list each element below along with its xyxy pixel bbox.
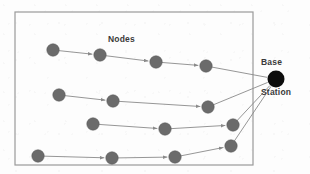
- sensor-node[interactable]: [106, 152, 118, 164]
- sensor-node[interactable]: [202, 101, 214, 113]
- chain-link: [170, 125, 225, 128]
- chain-link: [98, 124, 157, 128]
- nodes-label: Nodes: [108, 34, 135, 44]
- sensor-node[interactable]: [159, 123, 171, 135]
- sensor-node[interactable]: [32, 150, 44, 162]
- base-station-label: Base Station: [261, 37, 291, 117]
- sensor-node[interactable]: [94, 49, 106, 61]
- sensor-node[interactable]: [227, 119, 239, 131]
- figure-canvas: Nodes Base Station: [0, 0, 310, 174]
- base-station-label-line1: Base: [261, 57, 291, 67]
- chain-link: [180, 147, 223, 156]
- sensor-node[interactable]: [200, 60, 212, 72]
- sensor-nodes-layer: [32, 44, 239, 164]
- sensor-node[interactable]: [87, 118, 99, 130]
- chain-link: [161, 62, 198, 65]
- sensor-node[interactable]: [107, 95, 119, 107]
- sensor-node[interactable]: [169, 151, 181, 163]
- chain-link: [64, 96, 105, 101]
- chain-link: [58, 51, 92, 55]
- uplink-chain-1: [211, 67, 267, 77]
- sensor-node[interactable]: [150, 56, 162, 68]
- chain-link: [43, 156, 104, 158]
- chain-link: [105, 56, 148, 61]
- base-station-label-line2: Station: [261, 87, 291, 97]
- chain-link: [118, 101, 200, 106]
- sensor-node[interactable]: [47, 44, 59, 56]
- sensor-node[interactable]: [225, 140, 237, 152]
- chain-links-layer: [43, 51, 225, 158]
- sensor-node[interactable]: [53, 89, 65, 101]
- uplink-chain-2: [213, 82, 268, 105]
- chain-link: [117, 157, 167, 158]
